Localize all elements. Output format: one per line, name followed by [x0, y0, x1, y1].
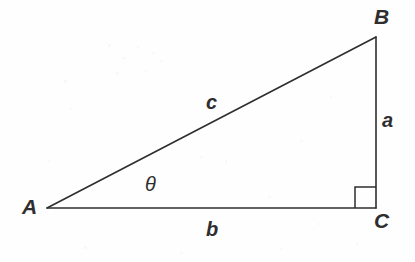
hypotenuse-line [47, 37, 376, 208]
vertex-label-b: B [374, 6, 389, 27]
angle-label-theta: θ [145, 174, 156, 194]
right-angle-marker-icon [355, 187, 376, 208]
right-triangle-figure: A B C a b c θ [0, 0, 415, 262]
vertex-label-c: C [374, 210, 389, 231]
vertex-label-a: A [22, 196, 37, 217]
side-label-c: c [206, 92, 217, 112]
side-label-b: b [206, 219, 218, 239]
side-label-a: a [382, 110, 393, 130]
